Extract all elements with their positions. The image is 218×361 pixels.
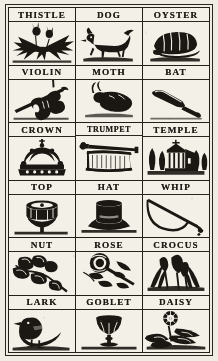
chart-cell-moth: MOTH (76, 66, 142, 123)
cell-label: CROCUS (143, 238, 209, 252)
nut-branch-icon (9, 252, 75, 294)
dog-icon (76, 22, 142, 64)
lark-bird-icon (9, 310, 75, 352)
chart-cell-violin: VIOLIN (9, 66, 75, 123)
violin-and-bow-icon (9, 80, 75, 122)
chart-cell-goblet: GOBLET (76, 296, 142, 353)
chart-grid: THISTLE (8, 7, 210, 353)
moth-icon (76, 80, 142, 122)
chart-cell-top: TOP (9, 181, 75, 238)
cell-label: HAT (76, 181, 142, 195)
cell-label: TEMPLE (143, 123, 209, 137)
cell-label: DAISY (143, 296, 209, 310)
cell-label: BAT (143, 66, 209, 80)
cell-label: MOTH (76, 66, 142, 80)
cell-label: VIOLIN (9, 66, 75, 80)
daisy-flower-icon (143, 310, 209, 352)
crown-icon (9, 137, 75, 179)
spinning-top-icon (9, 195, 75, 237)
cell-label: GOBLET (76, 296, 142, 310)
oyster-shell-icon (143, 22, 209, 64)
crocus-flower-icon (143, 252, 209, 294)
temple-building-icon (143, 137, 209, 179)
chart-cell-bat: BAT (143, 66, 209, 123)
chart-cell-rose: ROSE (76, 238, 142, 295)
chart-cell-hat: HAT (76, 181, 142, 238)
chart-cell-temple: TEMPLE (143, 123, 209, 180)
cell-label: OYSTER (143, 8, 209, 22)
cell-label: NUT (9, 238, 75, 252)
chart-cell-oyster: OYSTER (143, 8, 209, 65)
whip-icon (143, 195, 209, 237)
chart-cell-lark: LARK (9, 296, 75, 353)
picture-chart-sheet: THISTLE (0, 0, 218, 361)
cell-label: DOG (76, 8, 142, 22)
rose-flower-icon (76, 252, 142, 294)
chart-outer-frame: THISTLE (5, 4, 213, 356)
cell-label: TRUMPET (76, 123, 142, 136)
chart-cell-trumpet: TRUMPET (76, 123, 142, 180)
goblet-icon (76, 310, 142, 352)
cell-label: THISTLE (9, 8, 75, 22)
cell-label: CROWN (9, 123, 75, 137)
top-hat-icon (76, 195, 142, 237)
chart-cell-nut: NUT (9, 238, 75, 295)
chart-cell-whip: WHIP (143, 181, 209, 238)
chart-cell-crown: CROWN (9, 123, 75, 180)
chart-cell-thistle: THISTLE (9, 8, 75, 65)
thistle-plant-icon (9, 22, 75, 64)
cell-label: LARK (9, 296, 75, 310)
cell-label: ROSE (76, 238, 142, 252)
chart-cell-dog: DOG (76, 8, 142, 65)
trumpet-with-banner-icon (76, 136, 142, 179)
cricket-bat-icon (143, 80, 209, 122)
cell-label: TOP (9, 181, 75, 195)
chart-cell-crocus: CROCUS (143, 238, 209, 295)
cell-label: WHIP (143, 181, 209, 195)
chart-cell-daisy: DAISY (143, 296, 209, 353)
